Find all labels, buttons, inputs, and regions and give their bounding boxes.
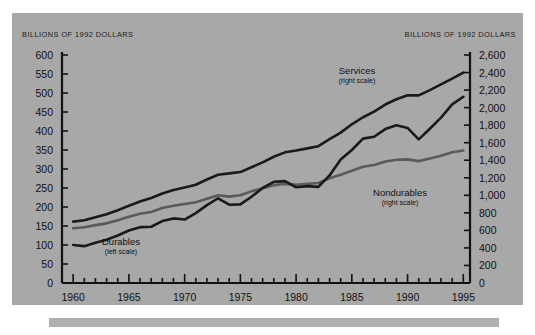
left-tick-label: 500 bbox=[35, 87, 53, 99]
x-tick-label: 1990 bbox=[396, 291, 420, 303]
left-tick-label: 200 bbox=[35, 201, 53, 213]
right-tick-label: 2,400 bbox=[479, 67, 505, 79]
plot-area: 050100150200250300350400450500550600 020… bbox=[0, 0, 535, 335]
left-tick-label: 350 bbox=[35, 144, 53, 156]
right-tick-label: 1,200 bbox=[479, 172, 505, 184]
right-tick-label: 2,000 bbox=[479, 102, 505, 114]
annotation-services: Services(right scale) bbox=[339, 65, 376, 85]
left-axis-ticks: 050100150200250300350400450500550600 bbox=[35, 49, 68, 289]
x-tick-label: 1980 bbox=[284, 291, 308, 303]
x-tick-label: 1985 bbox=[340, 291, 364, 303]
chart-figure: BILLIONS OF 1992 DOLLARS BILLIONS OF 199… bbox=[0, 0, 535, 335]
x-tick-label: 1970 bbox=[173, 291, 197, 303]
left-tick-label: 250 bbox=[35, 182, 53, 194]
x-tick-label: 1965 bbox=[117, 291, 141, 303]
annotation-sublabel: (left scale) bbox=[105, 248, 137, 256]
right-tick-label: 200 bbox=[479, 259, 497, 271]
right-tick-label: 800 bbox=[479, 207, 497, 219]
left-tick-label: 150 bbox=[35, 220, 53, 232]
annotation-durables: Durables(left scale) bbox=[102, 236, 140, 256]
left-tick-label: 600 bbox=[35, 49, 53, 61]
left-tick-label: 450 bbox=[35, 106, 53, 118]
left-tick-label: 300 bbox=[35, 163, 53, 175]
x-tick-label: 1960 bbox=[61, 291, 85, 303]
x-tick-label: 1995 bbox=[452, 291, 476, 303]
left-tick-label: 100 bbox=[35, 239, 53, 251]
right-tick-label: 1,600 bbox=[479, 137, 505, 149]
right-tick-label: 1,800 bbox=[479, 119, 505, 131]
right-tick-label: 600 bbox=[479, 224, 497, 236]
series-line-durables bbox=[73, 97, 463, 246]
right-tick-label: 400 bbox=[479, 242, 497, 254]
left-tick-label: 550 bbox=[35, 68, 53, 80]
right-tick-label: 2,200 bbox=[479, 84, 505, 96]
x-tick-label: 1975 bbox=[229, 291, 253, 303]
right-tick-label: 1,000 bbox=[479, 189, 505, 201]
series-lines bbox=[73, 73, 463, 247]
annotation-sublabel: (right scale) bbox=[339, 77, 376, 85]
annotation-label: Services bbox=[339, 65, 376, 76]
right-tick-label: 2,600 bbox=[479, 49, 505, 61]
annotation-label: Nondurables bbox=[373, 187, 427, 198]
left-tick-label: 400 bbox=[35, 125, 53, 137]
annotation-label: Durables bbox=[102, 236, 140, 247]
left-tick-label: 0 bbox=[47, 277, 53, 289]
annotation-nondurables: Nondurables(right scale) bbox=[373, 187, 427, 207]
right-tick-label: 0 bbox=[479, 277, 485, 289]
right-tick-label: 1,400 bbox=[479, 154, 505, 166]
x-axis-ticks: 19601965197019751980198519901995 bbox=[61, 274, 475, 303]
left-tick-label: 50 bbox=[41, 258, 53, 270]
annotation-sublabel: (right scale) bbox=[382, 199, 419, 207]
